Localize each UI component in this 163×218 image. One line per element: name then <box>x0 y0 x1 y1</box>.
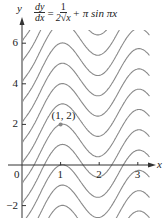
y-tick-label: 4 <box>13 78 19 89</box>
x-axis-arrow-icon <box>148 163 156 168</box>
differential-equation: dy dx = 1 2√x + π sin πx <box>34 2 117 23</box>
solution-curve <box>22 69 149 144</box>
x-tick-label: 2 <box>96 169 102 180</box>
solution-curve <box>22 110 149 185</box>
derivative-fraction: dy dx <box>34 2 45 23</box>
solution-curves-plot <box>0 0 163 218</box>
y-tick-label: 6 <box>13 37 19 48</box>
solution-curve <box>22 191 149 218</box>
point-marker <box>59 122 63 126</box>
rhs-fraction: 1 2√x <box>56 2 71 23</box>
x-tick-label: 1 <box>58 169 64 180</box>
y-axis-label: y <box>17 3 22 14</box>
solution-curve <box>22 130 149 205</box>
solution-curves <box>22 0 149 218</box>
x-tick-label: 3 <box>135 169 141 180</box>
solution-curve <box>22 49 149 124</box>
solution-curve <box>22 170 149 218</box>
point-label: (1, 2) <box>52 110 76 121</box>
solution-curve <box>22 28 149 103</box>
x-tick-label: 0 <box>14 169 20 180</box>
x-axis-label: x <box>157 159 162 170</box>
solution-curve <box>22 89 149 164</box>
y-axis-arrow-icon <box>20 17 25 25</box>
y-tick-label: 2 <box>13 118 19 129</box>
solution-curve <box>22 150 149 218</box>
y-tick-label: −2 <box>6 200 18 211</box>
